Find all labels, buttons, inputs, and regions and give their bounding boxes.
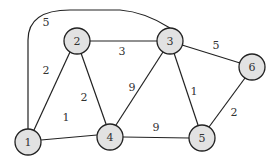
node-3: 3 — [157, 28, 183, 54]
edge-weight-5-6: 2 — [231, 106, 238, 119]
node-label: 5 — [199, 132, 206, 145]
edges-layer — [28, 10, 245, 140]
edge-weight-3-4: 9 — [129, 81, 136, 94]
edge-weight-2-4: 2 — [81, 91, 88, 104]
nodes-layer: 123456 — [15, 28, 265, 155]
node-label: 2 — [74, 35, 81, 48]
node-2: 2 — [64, 28, 90, 54]
node-1: 1 — [15, 129, 41, 155]
edge-weight-4-5: 9 — [153, 121, 160, 134]
edge-3-6 — [182, 45, 240, 63]
node-label: 6 — [249, 61, 256, 74]
edge-3-4 — [116, 52, 163, 125]
node-4: 4 — [97, 124, 123, 150]
edge-weight-1-3: 5 — [43, 16, 50, 29]
edge-5-6 — [209, 78, 245, 127]
edge-2-4 — [81, 53, 106, 124]
node-5: 5 — [189, 125, 215, 151]
edge-4-5 — [123, 137, 189, 138]
edge-1-4 — [41, 135, 97, 140]
edge-weight-3-5: 1 — [191, 85, 198, 98]
node-label: 4 — [107, 131, 114, 144]
edge-weight-1-2: 2 — [43, 64, 50, 77]
node-label: 3 — [167, 35, 174, 48]
node-label: 1 — [25, 136, 32, 149]
node-6: 6 — [239, 54, 265, 80]
edge-weight-2-3: 3 — [119, 45, 126, 58]
edge-weight-1-4: 1 — [63, 111, 70, 124]
edge-weight-3-6: 5 — [213, 39, 220, 52]
graph-diagram: 5232191592 123456 — [0, 0, 276, 162]
